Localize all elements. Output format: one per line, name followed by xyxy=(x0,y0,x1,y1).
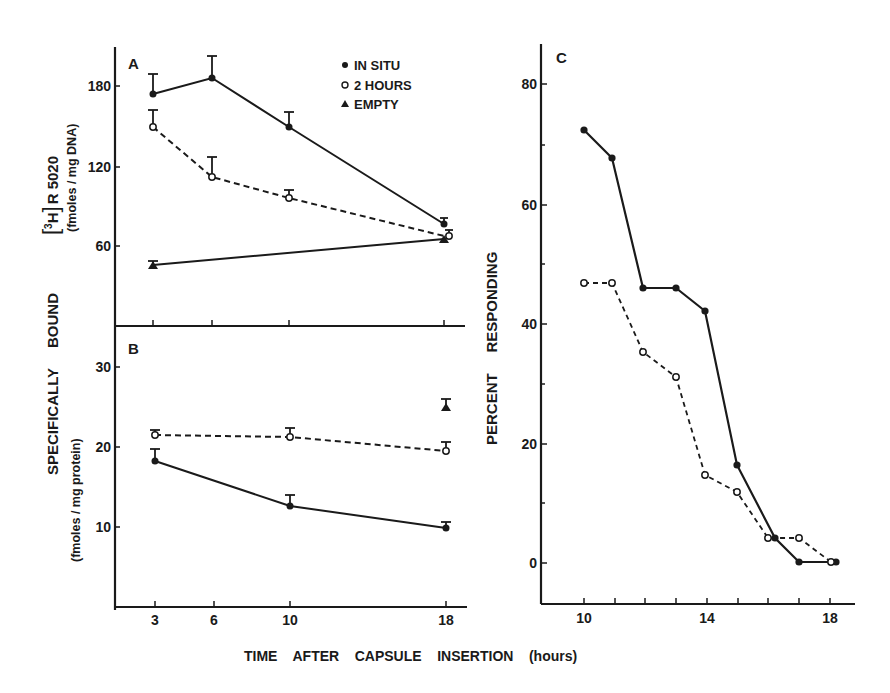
b-x-tick-labels: 3 6 10 18 xyxy=(151,612,454,628)
a-ylabel-units: (fmoles / mg DNA) xyxy=(65,124,79,232)
panel-label-c: C xyxy=(556,49,567,66)
svg-text:3: 3 xyxy=(151,612,159,628)
svg-text:6: 6 xyxy=(210,612,218,628)
x-axis-title: TIME AFTER CAPSULE INSERTION (hours) xyxy=(244,648,577,664)
svg-text:30: 30 xyxy=(95,359,111,375)
a-in-situ-line xyxy=(153,78,444,224)
panel-b xyxy=(115,367,467,607)
b-ylabel-units: (fmoles / mg protein) xyxy=(69,438,83,562)
a-empty-line xyxy=(153,239,444,265)
c-ylabel: PERCENT RESPONDING xyxy=(483,252,500,445)
legend-triangle-icon xyxy=(341,100,349,107)
b-in-situ-line xyxy=(155,461,446,528)
svg-text:20: 20 xyxy=(95,439,111,455)
svg-text:10: 10 xyxy=(576,610,592,626)
svg-text:10: 10 xyxy=(282,612,298,628)
b-error-bars xyxy=(150,399,451,528)
panel-label-a: A xyxy=(128,55,139,72)
legend-2-hours: 2 HOURS xyxy=(354,78,412,93)
legend-filled-circle-icon xyxy=(342,62,348,68)
svg-text:180: 180 xyxy=(88,78,112,94)
svg-text:10: 10 xyxy=(95,519,111,535)
panel-a xyxy=(115,47,465,610)
svg-text:[3H]R 5020: [3H]R 5020 xyxy=(38,156,63,235)
panel-label-b: B xyxy=(128,340,139,357)
a-2-hours-markers xyxy=(150,124,452,239)
ylabel-specifically: SPECIFICALLY xyxy=(44,368,61,475)
legend-open-circle-icon xyxy=(342,82,348,88)
svg-text:18: 18 xyxy=(438,612,454,628)
legend-empty: EMPTY xyxy=(354,97,399,112)
svg-text:60: 60 xyxy=(521,197,537,213)
b-in-situ-markers xyxy=(152,458,450,532)
a-ylabel-main: [3H]R 5020 xyxy=(38,156,63,235)
legend: IN SITU 2 HOURS EMPTY xyxy=(341,58,412,112)
svg-text:18: 18 xyxy=(822,610,838,626)
a-in-situ-markers xyxy=(150,75,448,228)
svg-text:120: 120 xyxy=(88,159,112,175)
panel-c xyxy=(541,44,855,604)
legend-in-situ: IN SITU xyxy=(354,58,400,73)
b-2-hours-line xyxy=(155,435,446,451)
b-y-tick-labels: 30 20 10 xyxy=(95,359,111,535)
a-y-tick-labels: 180 120 60 xyxy=(88,78,112,254)
ylabel-bound: BOUND xyxy=(44,293,61,348)
b-empty-markers xyxy=(441,403,451,411)
svg-text:20: 20 xyxy=(521,436,537,452)
svg-text:14: 14 xyxy=(699,610,715,626)
svg-text:60: 60 xyxy=(95,238,111,254)
c-x-tick-labels: 10 14 18 xyxy=(576,610,838,626)
figure: IN SITU 2 HOURS EMPTY A B C 180 120 60 3… xyxy=(0,0,890,693)
svg-text:80: 80 xyxy=(521,76,537,92)
svg-text:40: 40 xyxy=(521,316,537,332)
c-in-situ-line xyxy=(584,130,836,562)
c-y-tick-labels: 80 60 40 20 0 xyxy=(521,76,537,571)
svg-text:0: 0 xyxy=(529,555,537,571)
a-2-hours-line xyxy=(153,127,444,236)
